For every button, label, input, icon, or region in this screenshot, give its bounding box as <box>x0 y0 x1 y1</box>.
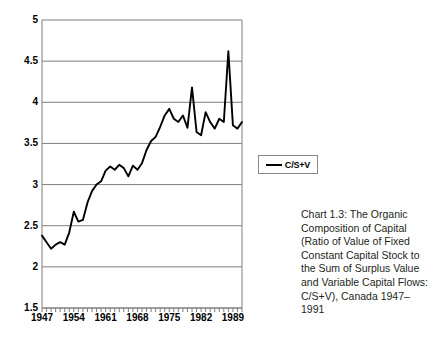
x-tick-label: 1968 <box>120 312 154 323</box>
y-tick-label: 3 <box>12 179 38 190</box>
x-tick-label: 1961 <box>89 312 123 323</box>
chart-legend: C/S+V <box>258 155 318 174</box>
y-tick-label: 2 <box>12 261 38 272</box>
x-tick-label: 1975 <box>152 312 186 323</box>
legend-label: C/S+V <box>285 160 310 170</box>
y-tick-label: 3.5 <box>12 137 38 148</box>
series-line-c-over-s-plus-v <box>42 51 242 248</box>
y-tick-label: 4 <box>12 96 38 107</box>
y-tick-label: 4.5 <box>12 55 38 66</box>
legend-line-swatch-icon <box>266 164 282 166</box>
chart-figure: 54.543.532.521.5 19471954196119681975198… <box>0 0 440 348</box>
y-tick-label: 5 <box>12 14 38 25</box>
chart-caption: Chart 1.3: The Organic Composition of Ca… <box>301 208 433 317</box>
x-tick-label: 1989 <box>216 312 250 323</box>
x-tick-label: 1982 <box>184 312 218 323</box>
x-tick-label: 1954 <box>57 312 91 323</box>
x-tick-label: 1947 <box>25 312 59 323</box>
y-tick-label: 2.5 <box>12 220 38 231</box>
